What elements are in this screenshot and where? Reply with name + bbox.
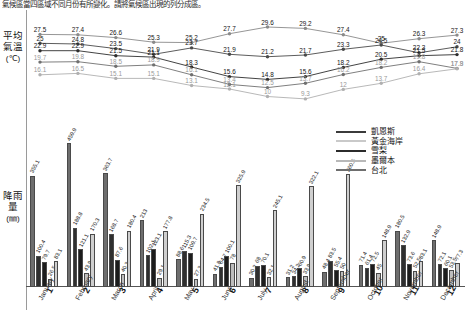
y-axis-temperature-unit: (℃): [6, 54, 20, 63]
rainfall-bar-label: 123.1: [150, 232, 162, 247]
legend-item[interactable]: 凱恩斯: [336, 127, 428, 137]
month-name-label: May: [183, 286, 195, 301]
y-axis-rainfall-label: 降雨量 (㎜): [2, 190, 24, 224]
temperature-point: [228, 53, 231, 56]
temperature-point-label: 29.6: [261, 19, 273, 26]
bar-group: 355.1100.479.726.583.1: [27, 140, 64, 287]
temperature-point: [455, 53, 458, 56]
rainfall-bar: [213, 274, 218, 287]
bar-group: 41.864.7100.178325.9: [210, 140, 247, 287]
temperature-point: [38, 60, 41, 63]
rainfall-bar: [151, 249, 156, 288]
temperature-point: [38, 49, 41, 52]
temperature-point: [114, 36, 117, 39]
rainfall-bar: [309, 186, 314, 287]
bar-group: 88.6115.3109.727.3234.5: [173, 140, 210, 287]
temperature-point-label: 12.1: [223, 81, 235, 88]
rainfall-bar: [236, 185, 241, 287]
rainfall-bar: [36, 256, 41, 287]
rainfall-bar: [127, 231, 132, 287]
rainfall-bar: [219, 267, 224, 287]
rainfall-bar: [261, 265, 266, 287]
temperature-point: [417, 60, 420, 63]
temperature-point: [380, 66, 383, 69]
legend-label: 凱恩斯: [371, 127, 395, 136]
temperature-point-label: 24: [453, 38, 460, 45]
temperature-point-label: 19.8: [413, 53, 425, 60]
temperature-point-label: 25: [36, 35, 43, 42]
legend-item[interactable]: 墨爾本: [336, 156, 428, 166]
temperature-point-label: 21.5: [110, 47, 122, 54]
temperature-point: [190, 73, 193, 76]
temperature-point-label: 20.5: [375, 51, 387, 58]
rainfall-bar: [267, 277, 272, 287]
temperature-point-label: 21.2: [261, 48, 273, 55]
temperature-point: [455, 33, 458, 36]
temperature-point-label: 10: [264, 88, 271, 95]
temperature-point-label: 19.7: [34, 54, 46, 61]
y-axis-rainfall-unit: (㎜): [6, 214, 19, 223]
rainfall-bar-label: 121.1: [77, 232, 89, 247]
rainfall-bar: [176, 259, 181, 287]
temperature-point: [380, 82, 383, 85]
temperature-point-label: 13.7: [299, 75, 311, 82]
rainfall-bar: [273, 210, 278, 287]
temperature-point-label: 18.3: [185, 59, 197, 66]
temperature-point: [304, 53, 307, 56]
temperature-point: [190, 46, 193, 49]
temperature-point: [152, 77, 155, 80]
bar-group: 213102.1123.129.1177.8: [137, 140, 174, 287]
rainfall-bar: [194, 279, 199, 288]
temperature-point-label: 13.1: [185, 77, 197, 84]
temperature-point-label: 21.1: [147, 49, 159, 56]
rainfall-bar: [255, 266, 260, 287]
temperature-line-3: [40, 62, 457, 88]
legend-line-swatch: [336, 150, 366, 152]
rainfall-bar: [432, 240, 437, 287]
temperature-point-label: 17.8: [451, 60, 463, 67]
temperature-line-0: [40, 27, 457, 43]
temperature-line-svg: [26, 8, 467, 108]
temperature-point: [342, 73, 345, 76]
temperature-point-label: 22.9: [72, 42, 84, 49]
bar-group: 148.972.160.153.577.3: [429, 140, 466, 287]
temperature-point-label: 23.5: [110, 40, 122, 47]
rainfall-bar: [286, 277, 291, 287]
bar-group: 31.234.260.933.9322.1: [283, 140, 320, 287]
rainfall-bar-label: 83.1: [418, 247, 428, 259]
temperature-point-label: 24.5: [375, 37, 387, 44]
rainfall-bar-label: 168.7: [108, 218, 120, 233]
rainfall-bar: [230, 263, 235, 287]
rainfall-bar-label: 188.8: [71, 211, 83, 226]
rainfall-bar: [182, 251, 187, 287]
legend-item[interactable]: 黃金海岸: [336, 137, 428, 147]
legend-item[interactable]: 台北: [336, 165, 428, 175]
temperature-point: [417, 72, 420, 75]
rainfall-bar: [109, 234, 114, 287]
temperature-point-label: 27.4: [337, 26, 349, 33]
rainfall-bar: [438, 264, 443, 287]
legend-line-swatch: [336, 140, 366, 142]
temperature-point: [304, 27, 307, 30]
legend-item[interactable]: 雪梨: [336, 146, 428, 156]
temperature-point-label: 27.3: [451, 27, 463, 34]
temperature-point-label: 19.8: [72, 53, 84, 60]
temperature-point-label: 16.2: [337, 66, 349, 73]
temperature-point-label: 16.1: [34, 66, 46, 73]
temperature-point-label: 16.4: [413, 65, 425, 72]
temperature-point: [228, 87, 231, 90]
y-axis-temperature-text: 平均氣溫: [3, 30, 23, 52]
temperature-point-label: 26.3: [413, 30, 425, 37]
temperature-point-label: 26.6: [110, 29, 122, 36]
rainfall-bar: [163, 231, 168, 287]
temperature-point-label: 21.7: [299, 47, 311, 54]
bar-group: 363.7168.787.640.3180.4: [100, 140, 137, 287]
temperature-point-label: 12.5: [261, 79, 273, 86]
temperature-point: [228, 32, 231, 35]
temperature-point: [266, 25, 269, 28]
rainfall-bar: [200, 214, 205, 287]
rainfall-bar-label: 132.9: [400, 229, 412, 244]
temperature-point-label: 15.6: [223, 68, 235, 75]
temperature-point: [114, 65, 117, 68]
temperature-point-label: 16.5: [72, 65, 84, 72]
